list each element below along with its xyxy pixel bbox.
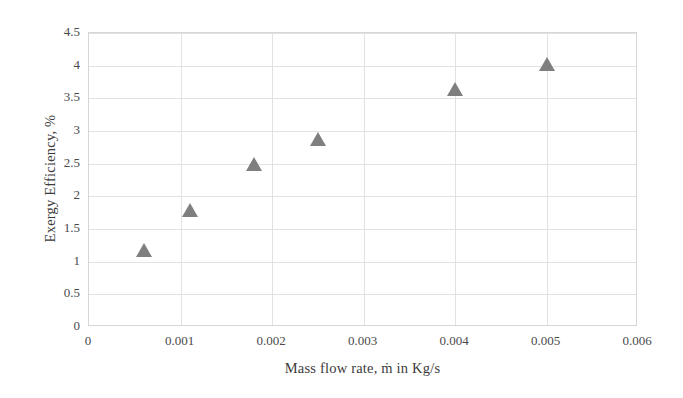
gridline-vertical [455,33,456,325]
gridline-horizontal [89,196,636,197]
gridline-vertical [547,33,548,325]
gridline-horizontal [89,98,636,99]
data-point-triangle [246,157,262,171]
y-tick-label: 0.5 [40,285,80,301]
y-tick-label: 1 [40,253,80,269]
gridline-horizontal [89,262,636,263]
y-tick-label: 4.5 [40,24,80,40]
x-tick-label: 0.003 [333,333,393,349]
gridline-horizontal [89,164,636,165]
y-tick-label: 3.5 [40,89,80,105]
x-tick-label: 0.002 [241,333,301,349]
x-axis-title: Mass flow rate, ṁ in Kg/s [88,360,637,377]
gridline-horizontal [89,229,636,230]
data-point-triangle [136,243,152,257]
exergy-efficiency-scatter-chart: Exergy Efficiency, % Mass flow rate, ṁ i… [0,0,683,398]
gridline-vertical [272,33,273,325]
y-tick-label: 2 [40,187,80,203]
x-tick-label: 0.004 [424,333,484,349]
gridline-vertical [364,33,365,325]
x-tick-label: 0.001 [150,333,210,349]
y-axis-title: Exergy Efficiency, % [42,29,59,329]
gridline-horizontal [89,294,636,295]
data-point-triangle [447,82,463,96]
gridline-horizontal [89,33,636,34]
y-tick-label: 0 [40,318,80,334]
y-tick-label: 4 [40,57,80,73]
y-tick-label: 1.5 [40,220,80,236]
y-tick-label: 2.5 [40,155,80,171]
x-tick-label: 0.005 [516,333,576,349]
plot-area [88,32,637,326]
x-tick-label: 0 [58,333,118,349]
data-point-triangle [310,132,326,146]
data-point-triangle [539,57,555,71]
gridline-vertical [181,33,182,325]
y-tick-label: 3 [40,122,80,138]
data-point-triangle [182,203,198,217]
gridline-horizontal [89,131,636,132]
x-tick-label: 0.006 [607,333,667,349]
